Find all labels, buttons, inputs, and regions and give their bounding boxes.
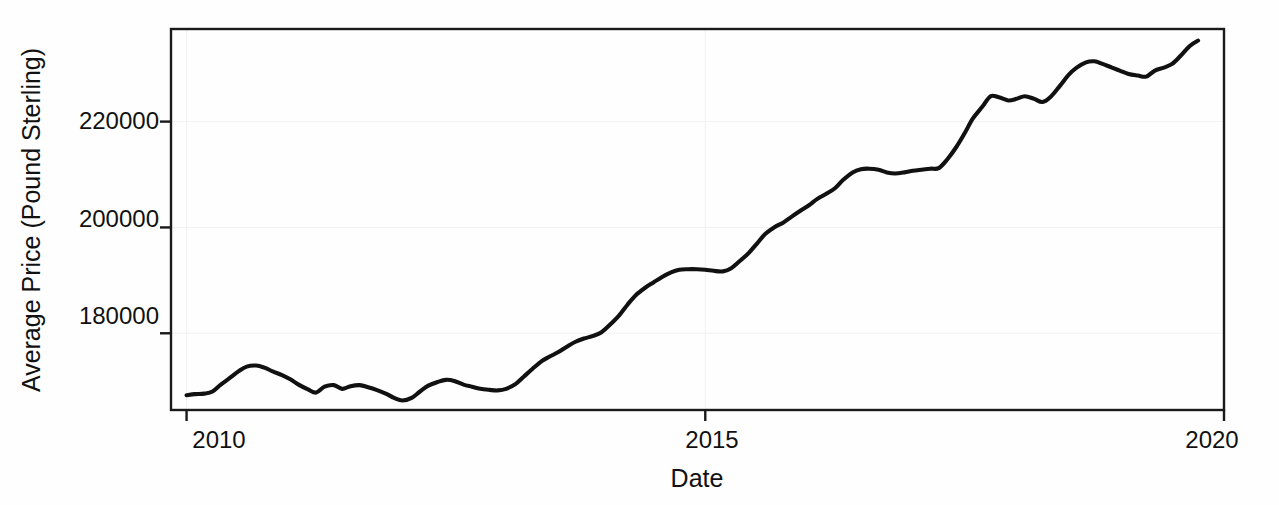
x-tick-label-2015: 2015 [685, 426, 738, 453]
line-chart: 220000 200000 180000 2010 2015 2020 Date… [0, 0, 1279, 505]
chart-page: 220000 200000 180000 2010 2015 2020 Date… [0, 0, 1279, 505]
y-tick-label-180000: 180000 [79, 302, 159, 329]
y-axis-label: Average Price (Pound Sterling) [17, 48, 45, 392]
x-tick-label-2020: 2020 [1185, 426, 1238, 453]
x-axis-label: Date [671, 464, 724, 492]
y-tick-label-220000: 220000 [79, 107, 159, 134]
x-tick-label-2010: 2010 [192, 426, 245, 453]
y-tick-label-200000: 200000 [79, 205, 159, 232]
